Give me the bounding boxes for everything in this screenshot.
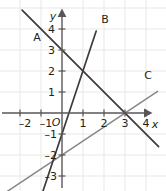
x-tick-label-3: 3 — [122, 117, 129, 130]
origin-label: O — [52, 116, 61, 129]
x-tick-label-1: 1 — [80, 117, 87, 130]
y-tick-label-2: 2 — [48, 65, 55, 78]
y-tick-label-neg1: –1 — [45, 128, 58, 141]
x-axis-label: x — [151, 118, 159, 131]
x-tick-label-neg2: –2 — [19, 117, 32, 130]
y-tick-label-1: 1 — [48, 86, 55, 99]
x-tick-label-2: 2 — [101, 117, 108, 130]
y-tick-label-neg2: –2 — [45, 149, 58, 162]
coordinate-plane-svg: –2 –1 1 2 3 4 4 3 2 1 –1 –2 –3 O x y A B… — [0, 0, 166, 191]
y-axis-label: y — [49, 10, 57, 23]
graph-figure: –2 –1 1 2 3 4 4 3 2 1 –1 –2 –3 O x y A B… — [0, 0, 166, 191]
y-tick-label-3: 3 — [48, 44, 55, 57]
y-tick-label-4: 4 — [48, 23, 55, 36]
line-label-a: A — [33, 31, 41, 44]
line-label-b: B — [101, 13, 109, 26]
line-label-c: C — [144, 69, 152, 82]
x-tick-label-4: 4 — [143, 117, 150, 130]
y-tick-label-neg3: –3 — [45, 170, 58, 183]
